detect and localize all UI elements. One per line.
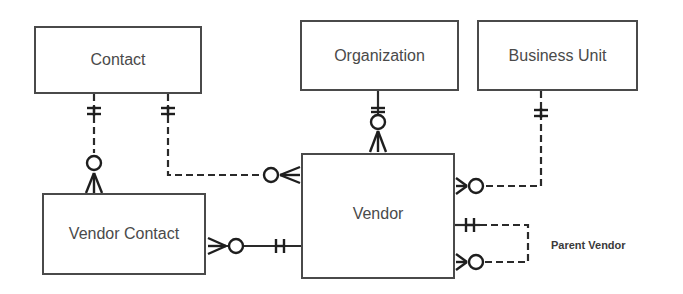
rel-business-unit-vendor bbox=[456, 91, 548, 194]
rel-contact-vendor bbox=[161, 94, 300, 183]
er-diagram-canvas: Contact Organization Business Unit Vendo… bbox=[0, 0, 683, 294]
entity-organization[interactable]: Organization bbox=[300, 20, 459, 91]
rel-contact-vendor-contact bbox=[86, 94, 102, 193]
rel-organization-vendor bbox=[370, 91, 386, 152]
entity-business-unit[interactable]: Business Unit bbox=[477, 20, 638, 91]
entity-label: Contact bbox=[90, 51, 145, 69]
entity-label: Business Unit bbox=[509, 47, 607, 65]
entity-label: Organization bbox=[334, 47, 425, 65]
rel-parent-vendor bbox=[455, 218, 528, 270]
entity-contact[interactable]: Contact bbox=[34, 26, 202, 94]
rel-vendor-vendor-contact bbox=[208, 238, 301, 254]
parent-vendor-label: Parent Vendor bbox=[551, 239, 626, 251]
entity-vendor-contact[interactable]: Vendor Contact bbox=[42, 193, 206, 275]
entity-label: Vendor Contact bbox=[69, 225, 179, 243]
entity-vendor[interactable]: Vendor bbox=[301, 153, 455, 279]
entity-label: Vendor bbox=[353, 205, 404, 223]
